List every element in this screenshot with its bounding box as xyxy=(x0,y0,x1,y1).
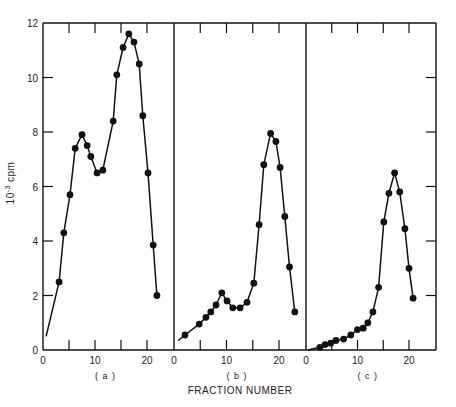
chart: 024681012 01020( a )01020( b )01020( c )… xyxy=(0,0,456,407)
data-point xyxy=(402,225,409,232)
data-point xyxy=(273,138,280,145)
data-point xyxy=(145,170,152,177)
data-point xyxy=(237,304,244,311)
data-point xyxy=(79,131,86,138)
data-point xyxy=(250,280,257,287)
data-point xyxy=(125,31,132,38)
x-tick-label: 20 xyxy=(141,355,153,366)
x-tick-label: 0 xyxy=(171,355,177,366)
x-tick-label: 20 xyxy=(403,355,415,366)
data-point xyxy=(391,170,398,177)
data-point xyxy=(131,39,138,46)
data-point xyxy=(139,112,146,119)
series-line xyxy=(46,34,157,337)
x-tick-label: 10 xyxy=(221,355,233,366)
y-tick-label: 2 xyxy=(32,291,38,302)
data-point xyxy=(113,71,120,78)
panel-c: 01020( c ) xyxy=(303,23,416,381)
x-tick-label: 10 xyxy=(352,355,364,366)
data-point xyxy=(56,279,63,286)
x-tick-label: 10 xyxy=(89,355,101,366)
data-point xyxy=(87,153,94,160)
x-tick-label: 0 xyxy=(303,355,309,366)
y-axis-title: 10-3cpm xyxy=(4,162,16,205)
data-point xyxy=(277,164,284,171)
data-point xyxy=(375,284,382,291)
data-point xyxy=(150,242,157,249)
data-point xyxy=(260,161,267,168)
x-axis-title: FRACTION NUMBER xyxy=(188,385,293,396)
y-tick-label: 4 xyxy=(32,236,38,247)
data-point xyxy=(229,304,236,311)
data-point xyxy=(203,314,210,321)
data-point xyxy=(60,229,67,236)
data-point xyxy=(224,298,231,305)
data-point xyxy=(281,213,288,220)
data-point xyxy=(347,332,354,339)
data-point xyxy=(84,142,91,149)
data-point xyxy=(410,295,417,302)
data-point xyxy=(396,189,403,196)
data-point xyxy=(370,309,377,316)
data-point xyxy=(267,130,274,137)
data-point xyxy=(67,191,74,198)
data-point xyxy=(333,337,340,344)
data-point xyxy=(99,167,106,174)
series-line xyxy=(308,173,413,350)
data-point xyxy=(196,321,203,328)
data-point xyxy=(291,309,298,316)
x-tick-label: 0 xyxy=(40,355,46,366)
data-point xyxy=(136,61,143,68)
y-tick-label: 10 xyxy=(27,73,39,84)
panels: 01020( a )01020( b )01020( c ) xyxy=(40,23,416,381)
y-tick-label: 12 xyxy=(27,18,39,29)
data-point xyxy=(286,264,293,271)
data-point xyxy=(354,326,361,333)
data-point xyxy=(340,336,347,343)
data-point xyxy=(110,118,117,125)
series-line xyxy=(178,133,295,340)
panel-label: ( b ) xyxy=(226,371,247,381)
data-point xyxy=(380,219,387,226)
data-point xyxy=(244,299,251,306)
plot-frame xyxy=(43,23,436,350)
panel-b: 01020( b ) xyxy=(171,23,298,381)
data-point xyxy=(213,302,220,309)
data-point xyxy=(154,292,161,299)
data-point xyxy=(207,309,214,316)
data-point xyxy=(360,325,367,332)
y-tick-label: 6 xyxy=(32,182,38,193)
data-point xyxy=(364,319,371,326)
y-tick-label: 8 xyxy=(32,127,38,138)
panel-label: ( a ) xyxy=(95,371,116,381)
data-point xyxy=(406,265,413,272)
panel-label: ( c ) xyxy=(358,371,379,381)
data-point xyxy=(120,44,127,51)
data-point xyxy=(182,332,189,339)
panel-a: 01020( a ) xyxy=(40,23,160,381)
data-point xyxy=(256,221,263,228)
data-point xyxy=(218,289,225,296)
y-tick-label: 0 xyxy=(32,345,38,356)
x-tick-label: 20 xyxy=(273,355,285,366)
data-point xyxy=(386,190,393,197)
data-point xyxy=(72,145,79,152)
